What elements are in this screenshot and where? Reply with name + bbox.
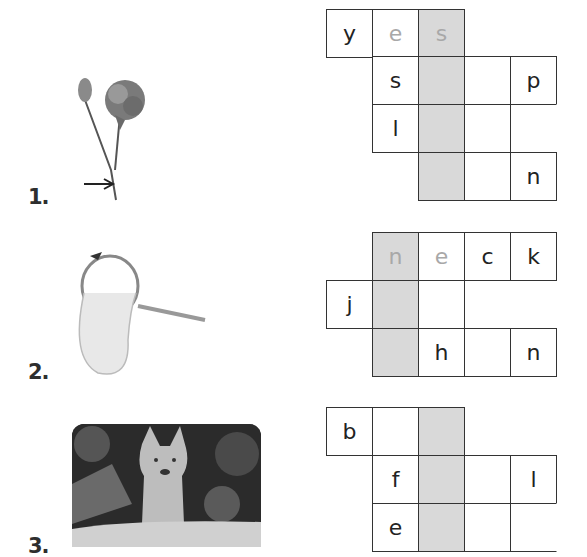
grid-cell[interactable]: h: [418, 328, 465, 377]
exercise-number: 1.: [28, 185, 49, 209]
grid-cell-shaded[interactable]: n: [372, 232, 419, 281]
grid-cell[interactable]: [418, 280, 465, 329]
grid-cell[interactable]: [510, 104, 557, 153]
grid-cell[interactable]: [464, 503, 511, 552]
exercise-number: 2.: [28, 360, 49, 384]
grid-cell-shaded[interactable]: [418, 104, 465, 153]
grid-cell[interactable]: [372, 407, 419, 456]
grid-cell-shaded[interactable]: [418, 455, 465, 504]
grid-cell[interactable]: n: [510, 328, 557, 377]
fox-photo: [72, 424, 261, 547]
grid-cell-shaded[interactable]: [418, 56, 465, 105]
grid-cell[interactable]: y: [326, 9, 373, 58]
grid-cell-shaded[interactable]: s: [418, 9, 465, 58]
grid-cell[interactable]: f: [372, 455, 419, 504]
grid-cell-shaded[interactable]: [372, 280, 419, 329]
butterfly-net-image: [68, 248, 213, 380]
grid-cell[interactable]: [464, 104, 511, 153]
grid-cell[interactable]: c: [464, 232, 511, 281]
grid-cell[interactable]: [510, 503, 557, 552]
grid-cell[interactable]: p: [510, 56, 557, 105]
grid-cell-shaded[interactable]: [418, 503, 465, 552]
grid-cell[interactable]: s: [372, 56, 419, 105]
grid-cell[interactable]: l: [372, 104, 419, 153]
grid-cell-shaded[interactable]: [372, 328, 419, 377]
grid-cell[interactable]: b: [326, 407, 373, 456]
grid-cell[interactable]: [464, 56, 511, 105]
grid-cell[interactable]: k: [510, 232, 557, 281]
grid-cell[interactable]: [464, 455, 511, 504]
grid-cell-shaded[interactable]: [418, 407, 465, 456]
grid-cell[interactable]: e: [418, 232, 465, 281]
grid-cell[interactable]: l: [510, 455, 557, 504]
grid-cell[interactable]: j: [326, 280, 373, 329]
grid-cell[interactable]: e: [372, 503, 419, 552]
grid-cell[interactable]: [464, 328, 511, 377]
grid-cell-shaded[interactable]: [418, 152, 465, 201]
grid-cell[interactable]: e: [372, 9, 419, 58]
arrow-right-icon: [84, 178, 116, 190]
grid-cell[interactable]: n: [510, 152, 557, 201]
grid-cell[interactable]: [464, 152, 511, 201]
exercise-number: 3.: [28, 534, 49, 557]
